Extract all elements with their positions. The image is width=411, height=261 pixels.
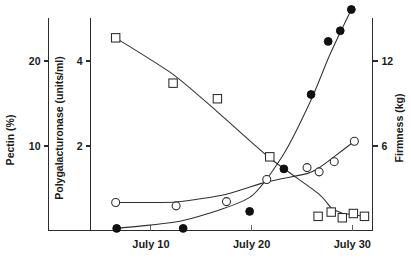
data-point-circle-1-2 bbox=[222, 198, 230, 206]
data-point-filled-circle-2-1 bbox=[179, 224, 187, 232]
data-point-circle-1-0 bbox=[112, 198, 120, 206]
x-axis-tick-labels: July 10July 20July 30 bbox=[132, 238, 371, 250]
data-point-filled-circle-2-7 bbox=[347, 6, 355, 14]
y-tick-label-firmness-1: 12 bbox=[382, 55, 394, 67]
data-point-filled-circle-2-5 bbox=[324, 37, 332, 45]
data-point-square-0-4 bbox=[314, 212, 322, 220]
y-axis-polygalacturonase-title: Polygalacturonase (units/ml) bbox=[53, 56, 65, 200]
data-point-square-0-0 bbox=[111, 34, 119, 42]
data-point-circle-1-1 bbox=[172, 202, 180, 210]
data-point-square-0-8 bbox=[360, 212, 368, 220]
x-tick-label-1: July 20 bbox=[233, 238, 270, 250]
y-tick-label-polygalacturonase-0: 2 bbox=[77, 140, 83, 152]
y-tick-label-pectin-1: 20 bbox=[29, 55, 41, 67]
data-point-square-0-6 bbox=[338, 214, 346, 222]
y-tick-label-polygalacturonase-1: 4 bbox=[77, 55, 83, 67]
scientific-line-chart: 1020 Pectin (%) 24 Polygalacturonase (un… bbox=[0, 0, 411, 261]
data-point-filled-circle-2-2 bbox=[246, 207, 254, 215]
x-tick-label-0: July 10 bbox=[132, 238, 169, 250]
chart-figure: 1020 Pectin (%) 24 Polygalacturonase (un… bbox=[0, 0, 411, 261]
data-point-square-0-3 bbox=[266, 153, 274, 161]
data-point-square-0-5 bbox=[327, 208, 335, 216]
data-point-filled-circle-2-4 bbox=[307, 91, 315, 99]
x-tick-label-2: July 30 bbox=[334, 238, 371, 250]
data-point-circle-1-6 bbox=[330, 158, 338, 166]
data-point-circle-1-4 bbox=[303, 164, 311, 172]
y-tick-label-firmness-0: 6 bbox=[382, 140, 388, 152]
data-point-filled-circle-2-3 bbox=[280, 165, 288, 173]
data-point-square-0-1 bbox=[169, 79, 177, 87]
data-point-filled-circle-2-0 bbox=[113, 224, 121, 232]
data-point-circle-1-7 bbox=[350, 137, 358, 145]
data-point-square-0-2 bbox=[213, 95, 221, 103]
y-tick-label-pectin-0: 10 bbox=[29, 140, 41, 152]
y-axis-firmness-title: Firmness (kg) bbox=[393, 94, 405, 163]
data-point-circle-1-5 bbox=[315, 168, 323, 176]
data-point-filled-circle-2-6 bbox=[336, 27, 344, 35]
data-point-square-0-7 bbox=[349, 209, 357, 217]
data-point-circle-1-3 bbox=[263, 176, 271, 184]
y-axis-pectin-title: Pectin (%) bbox=[4, 115, 16, 166]
